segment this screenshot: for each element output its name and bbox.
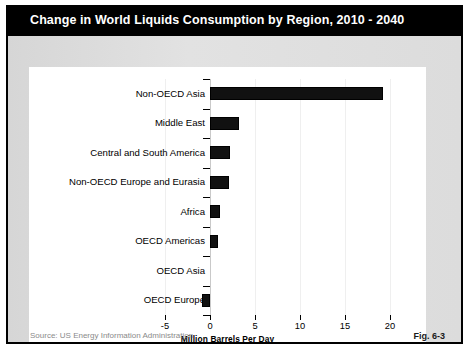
category-label: Africa (30, 206, 210, 217)
x-gridline (300, 79, 301, 315)
x-tick-label: -5 (150, 321, 180, 331)
x-tick-mark (210, 315, 211, 320)
x-gridline (390, 79, 391, 315)
category-row: OECD Asia (29, 265, 210, 277)
category-row: OECD Americas (29, 235, 210, 247)
source-note: Source: US Energy Information Administra… (30, 331, 193, 340)
category-label: Non-OECD Europe and Eurasia (30, 176, 210, 187)
title-band: Change in World Liquids Consumption by R… (8, 7, 461, 36)
category-row: Non-OECD Asia (29, 88, 210, 100)
category-label: OECD Europe (30, 294, 210, 305)
slide-body: Million Barrels Per Day -505101520Non-OE… (8, 36, 461, 344)
chart-card: Million Barrels Per Day -505101520Non-OE… (29, 67, 426, 344)
x-tick-mark (300, 315, 301, 320)
category-row: OECD Europe (29, 294, 210, 306)
y-tick-mark (203, 256, 210, 257)
category-row: Non-OECD Europe and Eurasia (29, 176, 210, 188)
category-label: Middle East (30, 117, 210, 128)
x-tick-label: 10 (285, 321, 315, 331)
x-gridline (345, 79, 346, 315)
x-tick-mark (255, 315, 256, 320)
figure-slide: Change in World Liquids Consumption by R… (0, 0, 469, 350)
x-tick-mark (165, 315, 166, 320)
bar-chart-plot: Million Barrels Per Day -505101520Non-OE… (29, 67, 426, 344)
category-row: Central and South America (29, 147, 210, 159)
category-row: Middle East (29, 117, 210, 129)
x-gridline (255, 79, 256, 315)
bar (202, 294, 210, 307)
bar (210, 146, 230, 159)
x-tick-label: 0 (195, 321, 225, 331)
x-tick-mark (390, 315, 391, 320)
bar (210, 87, 383, 100)
category-row: Africa (29, 206, 210, 218)
figure-number: Fig. 6-3 (413, 331, 445, 341)
y-tick-mark (203, 286, 210, 287)
category-label: Central and South America (30, 147, 210, 158)
bar (210, 205, 220, 218)
bar (210, 176, 229, 189)
y-tick-mark (203, 138, 210, 139)
y-tick-mark (203, 109, 210, 110)
y-tick-mark (203, 197, 210, 198)
x-tick-label: 15 (330, 321, 360, 331)
category-label: Non-OECD Asia (30, 88, 210, 99)
y-tick-mark (203, 168, 210, 169)
x-tick-label: 20 (375, 321, 405, 331)
category-label: OECD Asia (30, 265, 210, 276)
x-tick-mark (345, 315, 346, 320)
bar (210, 235, 218, 248)
y-tick-mark (203, 227, 210, 228)
page-title: Change in World Liquids Consumption by R… (30, 13, 404, 27)
bar (210, 117, 239, 130)
x-gridline (210, 79, 211, 315)
category-label: OECD Americas (30, 235, 210, 246)
x-gridline (165, 79, 166, 315)
slide-frame: Change in World Liquids Consumption by R… (6, 5, 463, 344)
y-tick-mark (203, 79, 210, 80)
y-tick-mark (203, 315, 210, 316)
x-tick-label: 5 (240, 321, 270, 331)
